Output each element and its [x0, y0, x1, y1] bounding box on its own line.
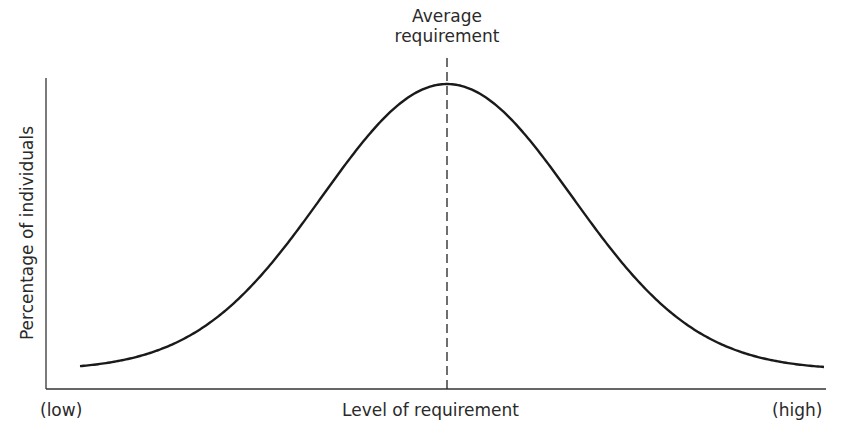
distribution-curve — [80, 84, 824, 367]
annotation-line-1: Average — [347, 6, 547, 26]
x-axis-label: Level of requirement — [342, 400, 519, 420]
x-tick-low: (low) — [40, 400, 82, 420]
chart-canvas — [0, 0, 853, 435]
annotation-line-2: requirement — [347, 26, 547, 46]
average-requirement-annotation: Average requirement — [347, 6, 547, 46]
x-tick-high: (high) — [772, 400, 822, 420]
y-axis-label: Percentage of individuals — [17, 126, 37, 340]
